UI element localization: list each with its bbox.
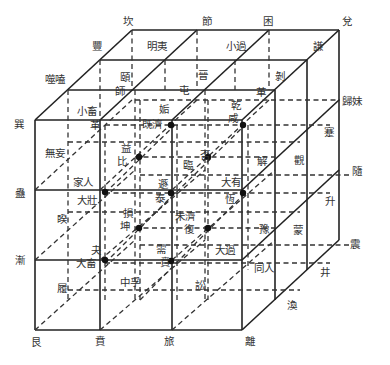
hexagram-label-ge2: 革: [90, 120, 100, 131]
hexagram-label-xian: 咸: [228, 113, 238, 124]
hexagram-label-xun: 巽: [14, 119, 24, 130]
hexagram-label-ben: 賁: [95, 336, 105, 347]
hexagram-label-kui: 睽: [57, 214, 67, 225]
hexagram-label-sheng: 升: [325, 196, 335, 207]
hexagram-label-dun: 遯: [158, 179, 168, 190]
hexagram-label-meng: 蒙: [293, 225, 303, 236]
hexagram-label-guimei: 歸妹: [342, 96, 362, 107]
hexagram-label-kun-oppress: 困: [263, 16, 273, 27]
hexagram-label-jiji: 既濟: [142, 119, 162, 130]
hexagram-label-bi-adorn: 賁: [160, 257, 170, 268]
hexagram-label-daguo: 大過: [215, 245, 235, 256]
cube-lines: [0, 0, 390, 365]
hexagram-label-lu-travel: 旅: [164, 336, 174, 347]
hexagram-label-pi: 否: [200, 150, 210, 161]
vertex-dot: [136, 225, 142, 231]
hexagram-label-jie-tally: 節: [202, 16, 212, 27]
hexagram-label-daxu: 大畜: [76, 258, 96, 269]
vertex-dot: [168, 190, 174, 196]
hexagram-label-dazhuang: 大壯: [77, 195, 97, 206]
hexagram-label-bo: 剝: [275, 71, 285, 82]
vertex-dot: [102, 257, 108, 263]
hexagram-label-yu: 豫: [259, 224, 269, 235]
hexagram-label-jing: 井: [320, 267, 330, 278]
hexagram-label-guai: 夬: [91, 245, 101, 256]
hexagram-label-xie: 解: [257, 156, 267, 167]
hexagram-label-tongren: 同人: [254, 263, 274, 274]
vertex-dot: [136, 154, 142, 160]
hexagram-label-fu: 復: [184, 224, 194, 235]
hexagram-label-bi-hold: 比: [117, 156, 127, 167]
hexagram-label-mingyi: 明夷: [147, 41, 167, 52]
hexagram-label-sui: 隨: [352, 166, 362, 177]
hexagram-label-sun: 損: [123, 208, 133, 219]
hexagram-cube-diagram: 坎節困兌豐明夷小過謙噬嗑頤師晉剝屯革歸妹小畜姤乾巽革既濟咸蹇無妄益比否臨解觀隨家…: [0, 0, 390, 365]
hexagram-label-kan: 坎: [123, 16, 133, 27]
hexagram-label-xu: 需: [156, 244, 166, 255]
hexagram-label-xiaoxu: 小畜: [77, 106, 97, 117]
hexagram-label-zhongfu: 中孚: [120, 277, 140, 288]
hexagram-label-gou: 姤: [159, 104, 169, 115]
hexagram-label-qian-heaven: 乾: [231, 100, 241, 111]
hexagram-label-lin: 臨: [183, 160, 193, 171]
vertex-dot: [102, 189, 108, 195]
vertex-dot: [205, 225, 211, 231]
hexagram-label-huan: 渙: [287, 300, 297, 311]
hexagram-label-song: 訟: [195, 280, 205, 291]
hexagram-label-xiaoguo: 小過: [226, 41, 246, 52]
hexagram-label-li: 離: [245, 336, 255, 347]
hexagram-label-dayou: 大有: [221, 177, 241, 188]
hexagram-label-guan: 觀: [294, 155, 304, 166]
hexagram-label-shi: 師: [115, 86, 125, 97]
hexagram-label-lu-tread: 履: [57, 283, 67, 294]
hexagram-label-gen: 艮: [31, 337, 41, 348]
hexagram-label-kun-earth: 坤: [120, 221, 130, 232]
hexagram-label-ge: 革: [256, 87, 266, 98]
hexagram-label-feng: 豐: [92, 41, 102, 52]
hexagram-label-jiaren: 家人: [73, 177, 93, 188]
hexagram-label-zhen: 震: [350, 239, 360, 250]
hexagram-label-shihe: 噬嗑: [45, 74, 65, 85]
hexagram-label-weiji: 未濟: [175, 211, 195, 222]
hexagram-label-zhun: 屯: [179, 85, 189, 96]
vertex-dot: [240, 190, 246, 196]
hexagram-label-wuwang: 無妄: [45, 148, 65, 159]
hexagram-label-gu: 蠱: [15, 188, 25, 199]
hexagram-label-tai: 泰: [155, 193, 165, 204]
hexagram-label-jian-obstruct: 蹇: [324, 127, 334, 138]
hexagram-label-sheng-up2: 晉: [198, 70, 208, 81]
hexagram-label-heng: 恆: [225, 194, 235, 205]
hexagram-label-jian-gradual: 漸: [15, 255, 25, 266]
hexagram-label-qian-modest: 謙: [313, 41, 323, 52]
hexagram-label-dui: 兌: [342, 16, 352, 27]
hexagram-label-yi-jaws: 頤: [120, 72, 130, 83]
vertex-dot: [240, 122, 246, 128]
vertex-dot: [168, 122, 174, 128]
hexagram-label-yi-increase: 益: [121, 143, 131, 154]
